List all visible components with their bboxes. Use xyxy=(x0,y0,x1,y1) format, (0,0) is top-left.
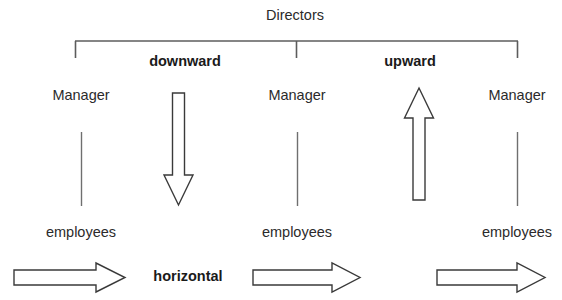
flow-label-horizontal: horizontal xyxy=(153,269,222,284)
horizontal-arrow-icon-center xyxy=(253,263,360,292)
horizontal-arrow-icon-right xyxy=(437,263,545,292)
flow-label-upward: upward xyxy=(384,54,436,69)
upward-arrow-icon xyxy=(405,88,434,200)
employees-label-left: employees xyxy=(46,225,116,240)
manager-label-left: Manager xyxy=(52,88,109,103)
directors-title: Directors xyxy=(266,8,324,23)
diagram-vector-layer xyxy=(0,0,562,300)
directors-bracket xyxy=(75,41,518,58)
manager-label-right: Manager xyxy=(488,88,545,103)
org-communication-diagram: Directors downward upward Manager Manage… xyxy=(0,0,562,300)
employees-label-center: employees xyxy=(262,225,332,240)
horizontal-arrow-icon-left xyxy=(14,263,125,292)
downward-arrow-icon xyxy=(164,93,193,205)
employees-label-right: employees xyxy=(482,225,552,240)
flow-label-downward: downward xyxy=(149,54,221,69)
manager-label-center: Manager xyxy=(268,88,325,103)
